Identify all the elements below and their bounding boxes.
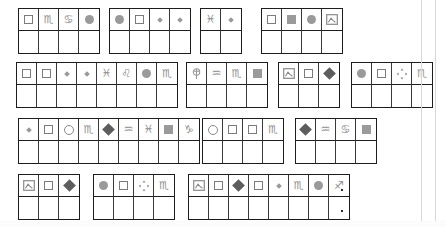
symbol-cell[interactable] [319, 63, 339, 85]
symbol-cell[interactable]: ♒ [316, 119, 336, 141]
answer-cell[interactable] [392, 85, 412, 107]
symbol-cell[interactable]: ♌ [117, 63, 137, 85]
symbol-cell[interactable] [247, 63, 267, 85]
answer-cell[interactable] [201, 31, 221, 53]
symbol-cell[interactable] [59, 119, 79, 141]
answer-cell[interactable] [39, 31, 59, 53]
symbol-cell[interactable] [79, 9, 99, 31]
symbol-cell[interactable]: ♏ [154, 175, 174, 197]
answer-cell[interactable] [19, 197, 39, 219]
symbol-cell[interactable]: ♏ [157, 63, 177, 85]
answer-cell[interactable] [19, 141, 39, 163]
answer-cell[interactable] [336, 141, 356, 163]
answer-cell[interactable] [316, 141, 336, 163]
answer-cell[interactable] [329, 197, 349, 219]
answer-cell[interactable] [249, 197, 269, 219]
symbol-cell[interactable]: ♒ [207, 63, 227, 85]
symbol-cell[interactable] [249, 175, 269, 197]
symbol-cell[interactable] [59, 175, 79, 197]
answer-cell[interactable] [134, 197, 154, 219]
answer-cell[interactable] [179, 141, 199, 163]
answer-cell[interactable] [229, 197, 249, 219]
symbol-cell[interactable] [159, 119, 179, 141]
answer-cell[interactable] [39, 197, 59, 219]
answer-cell[interactable] [59, 197, 79, 219]
answer-cell[interactable] [157, 85, 177, 107]
answer-cell[interactable] [37, 85, 57, 107]
answer-cell[interactable] [243, 141, 263, 163]
symbol-cell[interactable]: ♋ [59, 9, 79, 31]
answer-cell[interactable] [39, 141, 59, 163]
answer-cell[interactable] [137, 85, 157, 107]
symbol-cell[interactable] [94, 175, 114, 197]
answer-cell[interactable] [110, 31, 130, 53]
symbol-cell[interactable] [269, 175, 289, 197]
symbol-cell[interactable] [229, 175, 249, 197]
answer-cell[interactable] [203, 141, 223, 163]
symbol-cell[interactable] [299, 63, 319, 85]
symbol-cell[interactable] [39, 119, 59, 141]
answer-cell[interactable] [114, 197, 134, 219]
symbol-cell[interactable] [187, 63, 207, 85]
answer-cell[interactable] [79, 31, 99, 53]
answer-cell[interactable] [209, 197, 229, 219]
symbol-cell[interactable]: ♓ [201, 9, 221, 31]
answer-cell[interactable] [322, 31, 342, 53]
answer-cell[interactable] [17, 85, 37, 107]
symbol-cell[interactable]: ♒ [119, 119, 139, 141]
symbol-cell[interactable] [372, 63, 392, 85]
symbol-cell[interactable]: ♓ [139, 119, 159, 141]
answer-cell[interactable] [319, 85, 339, 107]
symbol-cell[interactable] [137, 63, 157, 85]
symbol-cell[interactable]: ♏ [79, 119, 99, 141]
symbol-cell[interactable]: ♑ [179, 119, 199, 141]
answer-cell[interactable] [187, 85, 207, 107]
answer-cell[interactable] [130, 31, 150, 53]
answer-cell[interactable] [227, 85, 247, 107]
symbol-cell[interactable] [296, 119, 316, 141]
symbol-cell[interactable]: ♏ [412, 63, 432, 85]
answer-cell[interactable] [263, 141, 283, 163]
symbol-cell[interactable] [130, 9, 150, 31]
symbol-cell[interactable] [223, 119, 243, 141]
answer-cell[interactable] [309, 197, 329, 219]
answer-cell[interactable] [170, 31, 190, 53]
answer-cell[interactable] [269, 197, 289, 219]
answer-cell[interactable] [299, 85, 319, 107]
symbol-cell[interactable] [302, 9, 322, 31]
answer-cell[interactable] [247, 85, 267, 107]
answer-cell[interactable] [189, 197, 209, 219]
answer-cell[interactable] [302, 31, 322, 53]
answer-cell[interactable] [296, 141, 316, 163]
answer-cell[interactable] [282, 31, 302, 53]
answer-cell[interactable] [159, 141, 179, 163]
symbol-cell[interactable] [189, 175, 209, 197]
symbol-cell[interactable] [322, 9, 342, 31]
answer-cell[interactable] [117, 85, 137, 107]
symbol-cell[interactable] [243, 119, 263, 141]
symbol-cell[interactable] [110, 9, 130, 31]
symbol-cell[interactable] [392, 63, 412, 85]
answer-cell[interactable] [77, 85, 97, 107]
answer-cell[interactable] [139, 141, 159, 163]
symbol-cell[interactable]: ♓ [97, 63, 117, 85]
answer-cell[interactable] [289, 197, 309, 219]
answer-cell[interactable] [221, 31, 241, 53]
answer-cell[interactable] [352, 85, 372, 107]
symbol-cell[interactable] [356, 119, 376, 141]
symbol-cell[interactable] [209, 175, 229, 197]
symbol-cell[interactable] [39, 175, 59, 197]
answer-cell[interactable] [262, 31, 282, 53]
symbol-cell[interactable] [309, 175, 329, 197]
symbol-cell[interactable] [19, 119, 39, 141]
symbol-cell[interactable] [170, 9, 190, 31]
symbol-cell[interactable] [221, 9, 241, 31]
symbol-cell[interactable] [99, 119, 119, 141]
symbol-cell[interactable]: ♋ [336, 119, 356, 141]
symbol-cell[interactable] [19, 175, 39, 197]
answer-cell[interactable] [412, 85, 432, 107]
symbol-cell[interactable] [57, 63, 77, 85]
answer-cell[interactable] [279, 85, 299, 107]
answer-cell[interactable] [59, 31, 79, 53]
symbol-cell[interactable] [279, 63, 299, 85]
